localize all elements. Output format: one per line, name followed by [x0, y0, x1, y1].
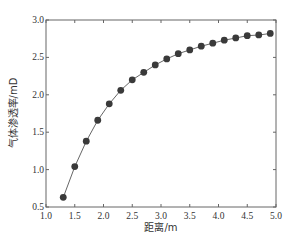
data-point [221, 37, 228, 44]
x-tick-label: 4.0 [213, 211, 225, 221]
x-tick-label: 1.0 [40, 211, 52, 221]
data-point [255, 32, 262, 39]
data-point [186, 47, 193, 54]
y-axis-label: 气体渗透率/mD [7, 77, 19, 148]
data-point [163, 55, 170, 62]
data-point [198, 43, 205, 50]
x-tick-label: 3.0 [155, 211, 167, 221]
data-point [129, 76, 136, 83]
y-tick-label: 3.0 [32, 15, 44, 25]
x-tick-label: 1.5 [69, 211, 81, 221]
y-tick-label: 2.5 [32, 52, 44, 62]
y-tick-label: 1.0 [32, 165, 44, 175]
y-tick-label: 2.0 [32, 90, 44, 100]
data-point [267, 30, 274, 37]
data-point [232, 35, 239, 42]
x-tick-label: 3.5 [184, 211, 196, 221]
y-tick-label: 1.5 [32, 127, 44, 137]
data-point [106, 100, 113, 107]
data-point [140, 69, 147, 76]
data-point [209, 40, 216, 47]
y-tick-label: 0.5 [32, 202, 44, 212]
x-tick-label: 5.0 [270, 211, 282, 221]
chart: 1.01.52.02.53.03.54.04.55.00.51.01.52.02… [0, 0, 296, 244]
x-tick-label: 4.5 [241, 211, 253, 221]
data-point [71, 163, 78, 170]
data-point [152, 61, 159, 68]
plot-area: 1.01.52.02.53.03.54.04.55.00.51.01.52.02… [32, 15, 282, 221]
data-point [175, 50, 182, 57]
x-tick-label: 2.5 [126, 211, 138, 221]
plot-frame [46, 20, 276, 207]
data-point [60, 194, 67, 201]
data-point [83, 138, 90, 145]
data-point [244, 32, 251, 39]
x-tick-label: 2.0 [98, 211, 110, 221]
data-point [117, 87, 124, 94]
data-point [94, 117, 101, 124]
x-axis-label: 距离/m [144, 221, 177, 233]
